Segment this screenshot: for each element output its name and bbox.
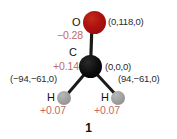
- atom-hydrogen-left: [57, 91, 71, 105]
- atom-charge-hydrogen-left: +0.07: [40, 105, 66, 116]
- atom-label-hydrogen-left: H: [47, 92, 55, 103]
- atom-carbon: [79, 55, 102, 78]
- atom-oxygen: [83, 11, 106, 34]
- atom-coordinates-oxygen: (0,118,0): [108, 17, 144, 27]
- atom-label-oxygen: O: [72, 17, 81, 28]
- atom-coordinates-hydrogen-left: (−94,−61,0): [10, 74, 57, 84]
- molecular-structure-figure: O −0.28 (0,118,0) C +0.14 (0,0,0) H +0.0…: [0, 0, 177, 139]
- atom-label-hydrogen-right: H: [101, 92, 109, 103]
- atom-hydrogen-right: [111, 91, 125, 105]
- atom-charge-oxygen: −0.28: [57, 30, 83, 41]
- figure-caption: 1: [0, 121, 177, 135]
- atom-charge-carbon: +0.14: [53, 61, 79, 72]
- atom-coordinates-hydrogen-right: (94,−61,0): [118, 74, 160, 84]
- atom-coordinates-carbon: (0,0,0): [105, 62, 131, 72]
- atom-charge-hydrogen-right: +0.07: [94, 105, 120, 116]
- atom-label-carbon: C: [69, 47, 77, 58]
